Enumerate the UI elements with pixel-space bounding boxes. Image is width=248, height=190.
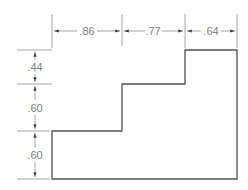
- dim-horizontal-3: .64: [203, 25, 218, 37]
- dim-vertical-3: .60: [27, 149, 42, 161]
- dim-vertical-2: .60: [27, 102, 42, 114]
- dim-horizontal-2: .77: [145, 25, 160, 37]
- dim-horizontal-1: .86: [79, 25, 94, 37]
- drawing-canvas: .86 .77 .64 .44 .60 .60: [0, 0, 248, 190]
- stepped-profile-outline: [52, 50, 237, 179]
- dim-vertical-1: .44: [27, 61, 42, 73]
